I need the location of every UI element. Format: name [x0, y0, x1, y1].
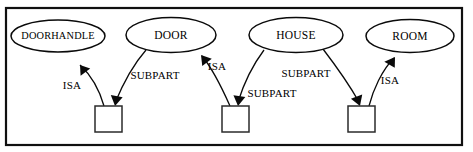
node-house[interactable]: HOUSE	[249, 18, 343, 53]
node-doorhandle[interactable]: DOORHANDLE	[11, 20, 105, 52]
edge-label-subpart-1: SUBPART	[130, 69, 179, 81]
edge-label-subpart-3: SUBPART	[281, 67, 330, 79]
node-instance-1[interactable]	[95, 106, 122, 132]
edge-label-isa-3: ISA	[381, 74, 399, 86]
node-room[interactable]: ROOM	[366, 20, 454, 53]
node-instance-3[interactable]	[348, 106, 375, 132]
node-label-room: ROOM	[392, 30, 427, 42]
node-label-door: DOOR	[154, 29, 188, 41]
edge-label-isa-2: ISA	[208, 60, 226, 72]
node-label-house: HOUSE	[276, 29, 315, 41]
node-instance-2[interactable]	[222, 106, 249, 132]
diagram-canvas: ISA SUBPART ISA SUBPART SUBPART	[0, 0, 473, 152]
node-box-shape	[95, 106, 122, 132]
node-door[interactable]: DOOR	[126, 18, 216, 53]
node-box-shape	[348, 106, 375, 132]
edge-label-subpart-2: SUBPART	[247, 87, 296, 99]
semantic-network-diagram: ISA SUBPART ISA SUBPART SUBPART	[0, 0, 473, 152]
node-box-shape	[222, 106, 249, 132]
edge-label-isa-1: ISA	[63, 79, 81, 91]
node-label-doorhandle: DOORHANDLE	[21, 30, 95, 41]
